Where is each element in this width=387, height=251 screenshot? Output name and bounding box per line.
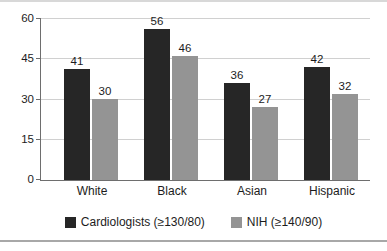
bar-group-asian: 36 27 xyxy=(224,18,280,180)
bar-value-white-cardiologists: 41 xyxy=(71,55,84,67)
legend-label-cardiologists: Cardiologists (≥130/80) xyxy=(81,215,205,229)
x-axis-label-asian: Asian xyxy=(237,184,267,198)
bar-value-hispanic-cardiologists: 42 xyxy=(311,53,324,65)
bar-chart-figure: 60 45 30 15 0 41 30 56 xyxy=(0,0,387,251)
bar-white-cardiologists[interactable]: 41 xyxy=(64,69,90,180)
legend-label-nih: NIH (≥140/90) xyxy=(247,215,322,229)
y-axis-tick-label-45: 45 xyxy=(4,52,34,64)
x-axis-label-hispanic: Hispanic xyxy=(309,184,355,198)
y-axis-tick-30 xyxy=(36,99,40,100)
bar-black-cardiologists[interactable]: 56 xyxy=(144,29,170,180)
legend-swatch-icon-nih xyxy=(231,217,242,228)
chart-legend: Cardiologists (≥130/80) NIH (≥140/90) xyxy=(0,215,387,229)
y-axis-tick-label-30: 30 xyxy=(4,93,34,105)
bottom-divider xyxy=(0,240,387,242)
y-axis-tick-60 xyxy=(36,18,40,19)
bar-value-black-cardiologists: 56 xyxy=(151,15,164,27)
bar-value-asian-cardiologists: 36 xyxy=(231,69,244,81)
y-axis-tick-45 xyxy=(36,58,40,59)
legend-item-nih[interactable]: NIH (≥140/90) xyxy=(231,215,322,229)
x-axis-label-black: Black xyxy=(157,184,186,198)
bar-asian-cardiologists[interactable]: 36 xyxy=(224,83,250,180)
bar-value-black-nih: 46 xyxy=(179,42,192,54)
y-axis-tick-0 xyxy=(36,179,40,180)
y-axis-tick-label-60: 60 xyxy=(4,12,34,24)
y-axis-line xyxy=(40,18,41,181)
bar-group-hispanic: 42 32 xyxy=(304,18,360,180)
legend-swatch-icon-cardiologists xyxy=(65,217,76,228)
bar-group-black: 56 46 xyxy=(144,18,200,180)
bar-asian-nih[interactable]: 27 xyxy=(252,107,278,180)
bar-hispanic-nih[interactable]: 32 xyxy=(332,94,358,180)
bar-black-nih[interactable]: 46 xyxy=(172,56,198,180)
x-axis-line xyxy=(40,180,370,181)
top-divider xyxy=(0,0,387,2)
bar-hispanic-cardiologists[interactable]: 42 xyxy=(304,67,330,180)
y-axis-tick-15 xyxy=(36,139,40,140)
bar-white-nih[interactable]: 30 xyxy=(92,99,118,180)
bar-group-white: 41 30 xyxy=(64,18,120,180)
bar-value-white-nih: 30 xyxy=(99,85,112,97)
bar-value-hispanic-nih: 32 xyxy=(339,80,352,92)
bar-value-asian-nih: 27 xyxy=(259,93,272,105)
x-axis-label-white: White xyxy=(77,184,108,198)
y-axis-tick-label-15: 15 xyxy=(4,133,34,145)
y-axis-tick-label-0: 0 xyxy=(4,173,34,185)
legend-item-cardiologists[interactable]: Cardiologists (≥130/80) xyxy=(65,215,205,229)
plot-area: 41 30 56 46 36 27 42 xyxy=(40,18,370,181)
